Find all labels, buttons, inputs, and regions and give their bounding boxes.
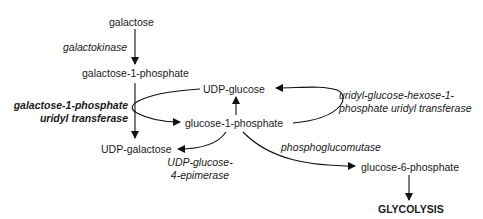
arrow-glc1p-to-udpglc-loop xyxy=(276,87,343,123)
enzyme-galt-line1: galactose-1-phosphate xyxy=(10,99,128,111)
metabolite-udp-glucose: UDP-glucose xyxy=(203,83,265,95)
enzyme-epimerase-line2: 4-epimerase xyxy=(160,169,240,181)
enzyme-uhut-line2: phosphate uridyl transferase xyxy=(339,102,472,114)
enzyme-galt-line2: uridyl transferase xyxy=(10,112,128,124)
enzyme-phosphoglucomutase: phosphoglucomutase xyxy=(281,141,381,153)
enzyme-uhut-line1: uridyl-glucose-hexose-1- xyxy=(339,89,454,101)
enzyme-galactokinase: galactokinase xyxy=(63,41,127,53)
arrow-glc1p-to-udpgal xyxy=(178,132,226,149)
metabolite-glucose-1-phosphate: glucose-1-phosphate xyxy=(185,117,283,129)
glycolysis-label: GLYCOLYSIS xyxy=(378,203,444,215)
metabolite-udp-galactose: UDP-galactose xyxy=(101,143,172,155)
metabolite-galactose: galactose xyxy=(109,16,154,28)
metabolite-galactose-1-phosphate: galactose-1-phosphate xyxy=(82,67,189,79)
metabolite-glucose-6-phosphate: glucose-6-phosphate xyxy=(361,161,459,173)
enzyme-epimerase-line1: UDP-glucose- xyxy=(160,156,240,168)
